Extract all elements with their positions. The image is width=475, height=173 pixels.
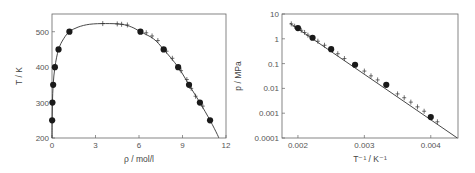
x-tick-label: 0.003 [354,141,375,150]
circle-marker [49,99,55,105]
circle-marker [197,99,203,105]
right-x-ticks: 0.0020.0030.004 [288,135,441,150]
circle-marker [55,46,61,52]
circle-marker [295,25,301,31]
left-x-ticks: 036912 [50,135,231,150]
plus-marker [144,30,148,35]
density-temperature-chart: 036912 200300400500 ρ / mol/l T / K [14,14,231,164]
x-tick-label: 3 [93,141,98,150]
plus-marker [402,95,406,100]
left-correlation-curve [52,24,219,138]
plus-marker [415,104,419,109]
circle-marker [66,29,72,35]
y-tick-label: 400 [36,63,50,72]
plus-marker [156,38,160,43]
figure: 036912 200300400500 ρ / mol/l T / K 0.00… [0,0,475,173]
plus-marker [120,22,124,27]
circle-marker [328,46,334,52]
x-tick-label: 0 [50,141,55,150]
y-tick-label: 0.01 [263,84,279,93]
vapor-pressure-chart: 0.0020.0030.004 1010.10.010.0010.0001 T⁻… [233,10,458,164]
circle-marker [352,62,358,68]
circle-marker [309,35,315,41]
circle-marker [383,82,389,88]
circle-marker [50,82,56,88]
plus-marker [342,56,346,61]
plus-marker [115,21,119,26]
circle-marker [207,117,213,123]
plus-marker [150,33,154,38]
y-tick-label: 0.1 [268,60,280,69]
right-y-axis-label: p / MPa [233,61,243,91]
x-tick-label: 0.004 [421,141,442,150]
y-tick-label: 1 [275,35,280,44]
circle-marker [175,64,181,70]
x-tick-label: 12 [222,141,231,150]
x-tick-label: 6 [137,141,142,150]
x-tick-label: 9 [180,141,185,150]
left-y-axis-label: T / K [14,67,24,85]
right-x-axis-label: T⁻¹ / K⁻¹ [353,154,387,164]
right-y-ticks: 1010.10.010.0010.0001 [255,10,285,143]
y-tick-label: 0.0001 [255,134,280,143]
plus-marker [170,56,174,61]
x-tick-label: 0.002 [288,141,309,150]
circle-marker [428,114,434,120]
y-tick-label: 10 [270,10,279,19]
plus-marker [323,43,327,48]
circle-marker [161,46,167,52]
plus-marker [422,109,426,114]
circle-marker [186,82,192,88]
circle-marker [52,64,58,70]
plus-marker [376,77,380,82]
left-simulation-markers [101,21,205,109]
plus-marker [185,77,189,82]
plus-marker [125,22,129,27]
plus-marker [409,100,413,105]
y-tick-label: 200 [36,134,50,143]
right-correlation-line [290,23,457,138]
circle-marker [49,117,55,123]
left-x-axis-label: ρ / mol/l [124,154,154,164]
left-experimental-markers [49,29,213,124]
y-tick-label: 500 [36,28,50,37]
y-tick-label: 0.001 [259,109,280,118]
circle-marker [137,29,143,35]
y-tick-label: 300 [36,99,50,108]
plus-marker [101,21,105,26]
